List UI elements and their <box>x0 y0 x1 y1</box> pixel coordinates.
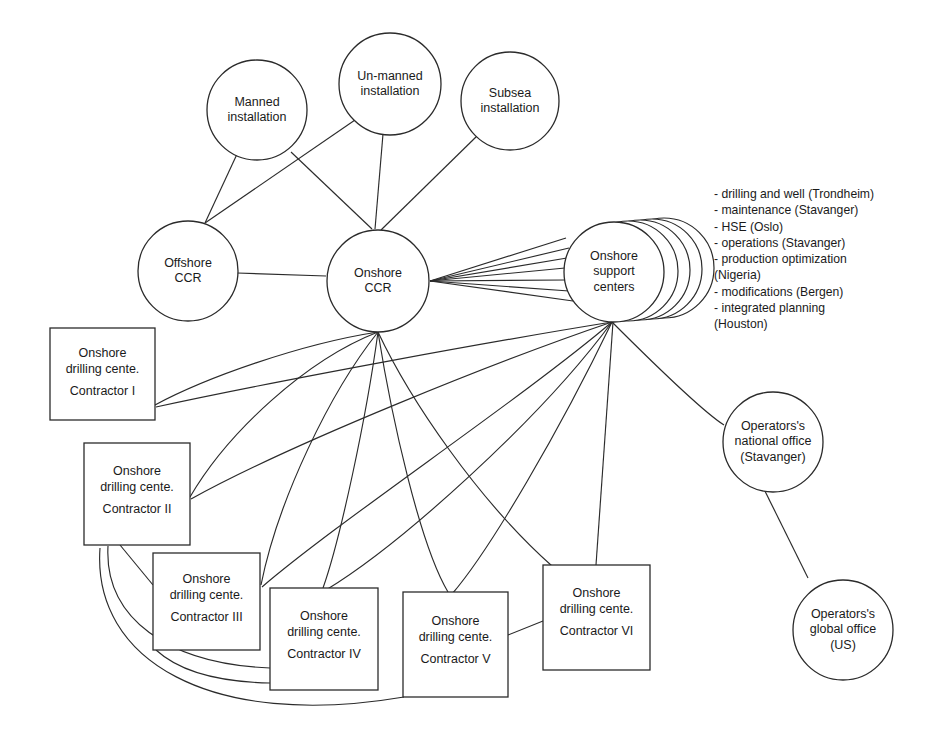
contractor-6-name: Contractor VI <box>543 624 650 640</box>
edge-onshore-ccr-support-7 <box>430 281 573 301</box>
edge-onshore-ccr-support-2 <box>430 248 569 281</box>
contractor-1-line1: Onshore <box>50 346 155 362</box>
node-unmanned-installation-shape[interactable] <box>339 33 441 135</box>
node-operators-global-office-shape[interactable] <box>793 580 893 680</box>
edge-onshore-ccr-contractor-3 <box>261 332 378 585</box>
node-contractor-1-label: Onshore drilling cente. Contractor I <box>50 346 155 400</box>
support-center-item: - drilling and well (Trondheim) <box>714 186 946 202</box>
contractor-2-line2: drilling cente. <box>84 480 190 496</box>
edge-subsea-to-onshore-ccr <box>381 135 478 230</box>
edge-national-office-to-global-office <box>758 477 808 578</box>
node-operators-national-office-shape[interactable] <box>723 392 823 492</box>
support-center-item: - HSE (Oslo) <box>714 219 946 235</box>
edge-support-centers-contractor-3 <box>262 322 612 587</box>
node-onshore-support-centers-shape[interactable] <box>564 222 664 322</box>
edge-onshore-ccr-contractor-1 <box>155 332 378 405</box>
contractor-1-name: Contractor I <box>50 384 155 400</box>
edge-support-centers-contractor-2 <box>191 322 612 499</box>
contractor-3-name: Contractor III <box>153 610 260 626</box>
support-center-item: - maintenance (Stavanger) <box>714 202 946 218</box>
support-center-item: - production optimization (Nigeria) <box>714 251 946 284</box>
node-onshore-ccr-shape[interactable] <box>327 230 429 332</box>
support-center-item: - modifications (Bergen) <box>714 284 946 300</box>
contractor-5-line1: Onshore <box>403 614 508 630</box>
edge-support-centers-contractor-5 <box>452 322 612 594</box>
edge-support-centers-to-national-office <box>612 322 724 425</box>
support-center-item: - integrated planning (Houston) <box>714 300 946 333</box>
contractor-1-line2: drilling cente. <box>50 362 155 378</box>
node-contractor-4-label: Onshore drilling cente. Contractor IV <box>270 609 378 663</box>
contractor-5-name: Contractor V <box>403 652 508 668</box>
edge-onshore-ccr-support-6 <box>430 281 569 291</box>
contractor-2-line1: Onshore <box>84 464 190 480</box>
contractor-4-line2: drilling cente. <box>270 625 378 641</box>
contractor-5-line2: drilling cente. <box>403 630 508 646</box>
contractor-3-line1: Onshore <box>153 572 260 588</box>
node-contractor-2-label: Onshore drilling cente. Contractor II <box>84 464 190 518</box>
contractor-2-name: Contractor II <box>84 502 190 518</box>
edge-support-centers-contractor-6 <box>596 322 613 565</box>
contractor-4-line1: Onshore <box>270 609 378 625</box>
node-contractor-3-label: Onshore drilling cente. Contractor III <box>153 572 260 626</box>
edge-group-ccr-to-support-centers <box>430 238 573 301</box>
diagram-canvas: Manned installation Un-manned installati… <box>0 0 948 750</box>
contractor-6-line1: Onshore <box>543 586 650 602</box>
contractor-3-line2: drilling cente. <box>153 588 260 604</box>
edge-onshore-ccr-contractor-6 <box>378 332 552 566</box>
edge-contractor-2-to-contractor-3 <box>120 545 153 585</box>
support-centers-list: - drilling and well (Trondheim) - mainte… <box>714 186 946 333</box>
edge-onshore-ccr-contractor-5 <box>378 332 448 592</box>
node-offshore-ccr-shape[interactable] <box>138 221 238 321</box>
edge-offshore-ccr-to-onshore-ccr <box>237 273 326 276</box>
contractor-6-line2: drilling cente. <box>543 602 650 618</box>
edge-unmanned-to-onshore-ccr <box>375 134 383 229</box>
node-contractor-6-label: Onshore drilling cente. Contractor VI <box>543 586 650 640</box>
node-contractor-5-label: Onshore drilling cente. Contractor V <box>403 614 508 668</box>
edge-group-operators-offices <box>758 477 808 578</box>
contractor-4-name: Contractor IV <box>270 647 378 663</box>
edge-support-centers-contractor-4 <box>326 322 612 590</box>
node-manned-installation-shape[interactable] <box>207 60 307 160</box>
edge-manned-to-onshore-ccr <box>291 152 372 229</box>
edge-onshore-ccr-support-5 <box>430 280 566 281</box>
support-center-item: - operations (Stavanger) <box>714 235 946 251</box>
edge-contractor-5-to-contractor-6 <box>508 621 543 635</box>
node-subsea-installation-shape[interactable] <box>461 52 559 150</box>
edge-onshore-ccr-contractor-2 <box>190 332 378 497</box>
